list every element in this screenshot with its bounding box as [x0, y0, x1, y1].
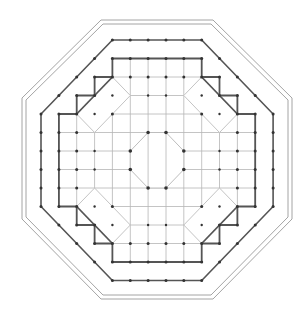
column-dot: [165, 94, 167, 96]
column-dot: [111, 57, 114, 60]
column-dot: [218, 242, 221, 245]
column-dot: [129, 279, 132, 282]
column-dot: [164, 57, 167, 60]
column-dot: [200, 279, 203, 282]
column-dot: [236, 76, 239, 79]
column-dot: [201, 224, 203, 226]
column-dot: [218, 76, 221, 79]
column-dot: [254, 150, 257, 153]
column-dot: [40, 131, 43, 134]
column-dot: [182, 279, 185, 282]
column-dot: [218, 205, 220, 207]
column-dot: [129, 76, 132, 79]
column-dot: [40, 187, 43, 190]
column-dot: [165, 242, 168, 245]
column-dot: [57, 205, 60, 208]
column-dot: [147, 242, 150, 245]
column-dot: [75, 113, 78, 116]
column-dot: [236, 205, 239, 208]
column-dot: [200, 76, 203, 79]
column-dot: [182, 149, 186, 153]
column-dot: [111, 39, 114, 42]
central-octagon: [130, 133, 184, 189]
column-dot: [40, 205, 43, 208]
column-dot: [182, 242, 185, 245]
column-dot: [147, 224, 149, 226]
column-dot: [254, 168, 257, 171]
column-dot: [218, 57, 221, 60]
column-dot: [147, 279, 150, 282]
column-dot: [272, 187, 275, 190]
column-dot: [164, 261, 167, 264]
column-dot: [111, 76, 114, 79]
column-dot: [75, 131, 78, 134]
column-dot: [236, 168, 239, 171]
column-dot: [272, 168, 275, 171]
column-dot: [93, 168, 95, 170]
column-dot: [57, 150, 60, 153]
column-dot: [236, 94, 239, 97]
column-dot: [75, 187, 78, 190]
column-dot: [75, 224, 78, 227]
column-dot: [111, 242, 114, 245]
column-dot: [218, 150, 220, 152]
column-dot: [218, 168, 220, 170]
column-dot: [147, 76, 150, 79]
column-dot: [93, 261, 96, 264]
column-dot: [272, 131, 275, 134]
column-dot: [129, 149, 133, 153]
column-dot: [75, 150, 78, 153]
column-dot: [93, 150, 95, 152]
column-dot: [272, 113, 275, 116]
column-dot: [146, 186, 150, 190]
column-dot: [111, 94, 113, 96]
column-dot: [57, 224, 60, 227]
column-dot: [147, 57, 150, 60]
column-dot: [93, 76, 96, 79]
octagonal-floor-plan: [0, 0, 308, 317]
column-dot: [164, 131, 168, 135]
column-dot: [200, 39, 203, 42]
column-dot: [40, 168, 43, 171]
column-dot: [165, 76, 168, 79]
column-dot: [111, 113, 114, 116]
column-dot: [93, 94, 96, 97]
column-dot: [75, 76, 78, 79]
column-dot: [201, 94, 203, 96]
column-dot: [200, 205, 203, 208]
column-dot: [254, 224, 257, 227]
column-dot: [147, 261, 150, 264]
column-dot: [236, 131, 239, 134]
column-dot: [236, 224, 239, 227]
column-dot: [93, 205, 95, 207]
column-dot: [164, 39, 167, 42]
column-dot: [254, 94, 257, 97]
column-dot: [200, 57, 203, 60]
column-dot: [147, 39, 150, 42]
column-dot: [182, 261, 185, 264]
column-dot: [218, 261, 221, 264]
column-dot: [254, 113, 257, 116]
column-dot: [272, 150, 275, 153]
column-dot: [254, 205, 257, 208]
column-dot: [111, 224, 113, 226]
column-dot: [57, 168, 60, 171]
column-dot: [40, 113, 43, 116]
column-dot: [200, 242, 203, 245]
column-dot: [147, 94, 149, 96]
column-dot: [254, 187, 257, 190]
column-dot: [129, 242, 132, 245]
column-dot: [165, 224, 167, 226]
column-dot: [57, 113, 60, 116]
column-dot: [111, 205, 114, 208]
column-dot: [93, 242, 96, 245]
column-dot: [182, 39, 185, 42]
column-dot: [129, 261, 132, 264]
column-dot: [146, 131, 150, 135]
column-dot: [182, 76, 185, 79]
column-dot: [218, 224, 221, 227]
column-dot: [57, 131, 60, 134]
column-dot: [218, 94, 221, 97]
column-dot: [40, 150, 43, 153]
column-dot: [93, 57, 96, 60]
